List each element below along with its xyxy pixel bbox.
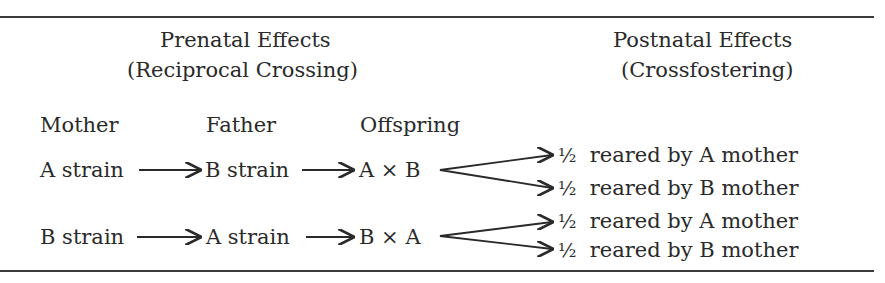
fraction: ½: [558, 177, 576, 199]
branch-arrow-icon: [440, 155, 552, 188]
fraction: ½: [558, 210, 576, 232]
branch-arrow-icon: [440, 222, 552, 249]
outcome-2: ½ reared by B mother: [558, 176, 798, 200]
outcome-4: ½ reared by B mother: [558, 238, 798, 262]
outcome-1: ½ reared by A mother: [558, 143, 798, 167]
outcome-label: reared by B mother: [590, 238, 799, 262]
outcome-3: ½ reared by A mother: [558, 209, 798, 233]
outcome-label: reared by B mother: [590, 176, 799, 200]
fraction: ½: [558, 144, 576, 166]
outcome-label: reared by A mother: [590, 143, 798, 167]
fraction: ½: [558, 239, 576, 261]
outcome-label: reared by A mother: [590, 209, 798, 233]
